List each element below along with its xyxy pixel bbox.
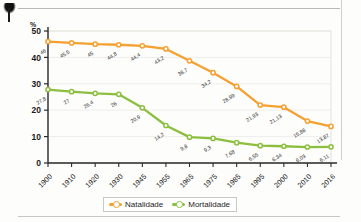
data-point [211,71,215,75]
data-label: 34,2 [200,78,212,89]
data-label: 26,4 [82,99,94,110]
chart-page: 1900-2016 ERICSON GUILHERME LUCIANO % 01… [0,0,361,222]
data-point [305,145,309,149]
data-label: 44,4 [129,52,141,63]
x-tick-label: 2010 [296,172,314,190]
data-label: 6,03 [295,153,307,164]
x-tick-label: 1995 [248,172,266,190]
data-label: 7,68 [224,148,236,159]
data-point [46,39,50,43]
data-point [164,47,168,51]
x-tick-label: 1985 [225,172,243,190]
page-title: 1900-2016 [36,0,87,2]
y-tick-label: 0 [36,158,41,168]
data-label: 6,11 [318,153,330,163]
data-point [117,92,121,96]
data-point [258,103,262,107]
bottom-rule [18,216,340,217]
legend-swatch-mortalidade [172,203,185,205]
data-point [329,124,333,128]
data-label: 21,93 [245,111,259,123]
line-chart: 0102030405019001910192019301945195519651… [0,9,341,209]
legend-label-natalidade: Natalidade [125,200,163,209]
x-tick-label: 1945 [131,172,149,190]
legend-swatch-natalidade [109,203,122,205]
data-label: 6,55 [247,151,259,162]
data-label: 15,88 [292,127,306,139]
credit-box: ERICSON GUILHERME LUCIANO [341,0,361,160]
x-tick-label: 1965 [178,172,196,190]
y-tick-label: 20 [32,105,42,115]
x-tick-label: 1910 [60,172,78,190]
data-point [329,145,333,149]
y-tick-label: 50 [32,26,42,36]
data-label: 27,8 [35,95,47,106]
data-label: 9,8 [179,143,188,152]
data-point [140,44,144,48]
data-point [93,91,97,95]
x-tick-label: 1975 [201,172,219,190]
data-point [282,144,286,148]
x-tick-label: 2000 [272,172,290,190]
data-label: 28,99 [221,92,235,104]
data-label: 6,34 [271,152,283,163]
x-tick-label: 2016 [319,172,337,190]
data-label: 27 [62,97,70,105]
data-label: 21,13 [268,113,282,125]
data-label: 13,87 [316,132,330,144]
data-label: 20,9 [129,114,141,125]
data-label: 43,2 [153,55,165,66]
data-point [117,43,121,47]
data-point [140,106,144,110]
data-point [69,90,73,94]
data-label: 45 [86,50,94,58]
data-label: 9,3 [203,144,212,153]
y-tick-label: 40 [32,53,42,63]
data-point [187,135,191,139]
data-point [305,119,309,123]
data-point [69,41,73,45]
data-point [46,88,50,92]
legend-item-natalidade[interactable]: Natalidade [109,200,163,209]
data-label: 14,2 [153,131,165,142]
data-point [211,136,215,140]
chart-legend: Natalidade Mortalidade [103,197,237,212]
x-tick-label: 1920 [83,172,101,190]
legend-item-mortalidade[interactable]: Mortalidade [172,200,230,209]
x-tick-label: 1900 [36,172,54,190]
data-label: 44,8 [106,50,118,61]
data-point [258,144,262,148]
legend-label-mortalidade: Mortalidade [188,200,230,209]
data-point [235,84,239,88]
data-label: 38,7 [177,67,189,78]
data-label: 26 [110,100,118,108]
data-point [93,42,97,46]
y-tick-label: 30 [32,79,42,89]
y-tick-label: 10 [32,132,42,142]
x-tick-label: 1930 [107,172,125,190]
data-point [164,123,168,127]
data-point [282,105,286,109]
data-point [235,141,239,145]
plot-area: % 01020304050190019101920193019451955196… [0,9,341,222]
x-tick-label: 1955 [154,172,172,190]
data-point [187,59,191,63]
